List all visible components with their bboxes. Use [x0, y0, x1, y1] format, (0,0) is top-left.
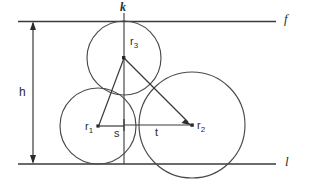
label-l: l [285, 155, 289, 168]
arrowhead-h-bottom [30, 155, 36, 164]
label-r1: r1 [85, 121, 93, 132]
label-s: s [114, 128, 120, 139]
label-t: t [155, 127, 158, 138]
segment-r3-r1 [99, 58, 124, 125]
center-dot-r3 [122, 56, 125, 59]
label-h: h [19, 86, 26, 98]
center-dot-r1 [96, 124, 99, 127]
arrowhead-h-top [30, 22, 36, 31]
label-k: k [120, 1, 126, 13]
label-r2: r2 [197, 120, 205, 131]
center-dot-r2 [190, 123, 193, 126]
label-r1-subscript: 1 [89, 126, 93, 135]
label-f: f [284, 12, 288, 25]
label-r2-subscript: 2 [201, 125, 205, 134]
geometry-figure: k f l h s t r1 r2 r3 [0, 0, 310, 179]
label-r3-subscript: 3 [134, 41, 138, 50]
figure-canvas [0, 0, 310, 179]
label-r3: r3 [130, 36, 138, 47]
